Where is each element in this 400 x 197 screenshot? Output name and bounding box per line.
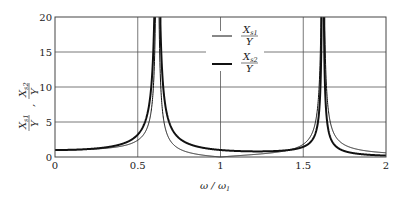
y-tick-label: 10: [39, 82, 52, 93]
x-tick-label: 0.5: [130, 160, 146, 171]
x-axis-label: ω / ω1: [200, 180, 230, 193]
y-tick-label: 15: [39, 47, 52, 58]
y-tick-label: 5: [46, 117, 52, 128]
y-tick-label: 20: [39, 12, 52, 23]
y-axis-label: Xs1 Y , Xs2 Y: [17, 82, 40, 131]
svg-text:Y: Y: [29, 119, 40, 127]
x-tick-label: 0: [52, 160, 58, 171]
x-tick-label: 2: [383, 160, 389, 171]
x-tick-label: 1.5: [295, 160, 311, 171]
y-tick-label: 0: [46, 152, 52, 163]
svg-text:,: ,: [25, 104, 36, 107]
x-tick-label: 1: [217, 160, 223, 171]
legend: Xs1 Y Xs2 Y: [206, 24, 264, 74]
chart: 00.511.5205101520 Xs1 Y Xs2 Y ω / ω1 Xs1…: [0, 0, 400, 197]
